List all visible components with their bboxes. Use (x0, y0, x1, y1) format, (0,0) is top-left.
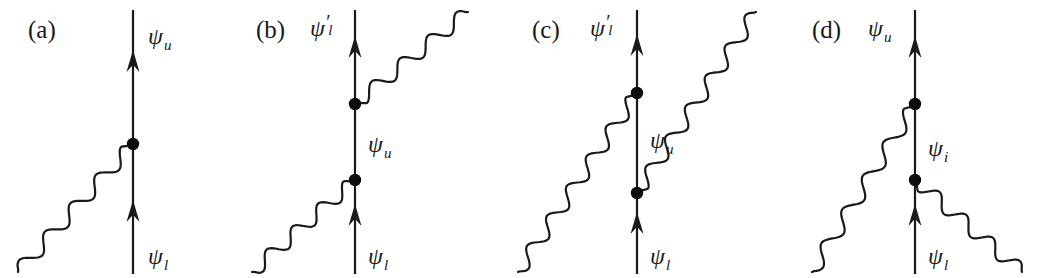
vertex-1-c (631, 87, 643, 99)
psi-glyph: ψ (148, 23, 164, 49)
psi-upper-b: ψ′l (310, 11, 332, 41)
psi-middle-b: ψu (368, 131, 391, 161)
vertex-2-c (631, 187, 643, 199)
psi-subscript-glyph: u (666, 141, 674, 157)
psi-subscript-glyph: i (944, 149, 948, 165)
panel-b: (b)ψ′lψuψl (252, 10, 468, 274)
psi-glyph: ψ (650, 243, 666, 269)
psi-lower-b: ψl (368, 243, 388, 273)
psi-subscript-glyph: u (164, 37, 172, 53)
vertex-1-b (349, 98, 361, 110)
psi-glyph: ψ (928, 135, 944, 161)
photon-in-lower-left (252, 180, 355, 273)
psi-glyph: ψ (590, 15, 606, 41)
photon-out-upper-right (355, 11, 468, 104)
panel-d: (d)ψuψiψl (812, 10, 1022, 274)
psi-glyph: ψ (148, 243, 164, 269)
psi-lower-a: ψl (148, 243, 168, 273)
psi-glyph: ψ (368, 131, 384, 157)
psi-glyph: ψ (650, 127, 666, 153)
psi-upper-c: ψ′l (590, 11, 612, 41)
psi-subscript-glyph: u (884, 29, 892, 45)
psi-glyph: ψ (310, 15, 326, 41)
feynman-diagram-figure: (a)ψuψl(b)ψ′lψuψl(c)ψ′lψuψl(d)ψuψiψl (0, 0, 1042, 278)
psi-glyph: ψ (868, 15, 884, 41)
psi-lower-c: ψl (650, 243, 670, 273)
psi-subscript-glyph: l (164, 257, 168, 273)
psi-subscript-glyph: u (384, 145, 392, 161)
vertex-2-b (349, 174, 361, 186)
panel-label-b: (b) (256, 16, 285, 44)
feynman-diagram-canvas: (a)ψuψl(b)ψ′lψuψl(c)ψ′lψuψl(d)ψuψiψl (0, 0, 1042, 278)
panel-label-a: (a) (28, 16, 56, 44)
photon-out-lower-left (18, 144, 133, 272)
psi-upper-d: ψu (868, 15, 891, 45)
psi-subscript-glyph: l (384, 257, 388, 273)
psi-middle-d: ψi (928, 135, 948, 165)
vertex-2-d (909, 174, 921, 186)
panel-label-c: (c) (532, 16, 560, 44)
vertex-1-a (127, 138, 139, 150)
panel-label-d: (d) (812, 16, 841, 44)
psi-upper-a: ψu (148, 23, 171, 53)
panel-c: (c)ψ′lψuψl (518, 10, 756, 274)
photon-out-upper-right (637, 12, 756, 193)
photon-out-lower-left (518, 93, 637, 272)
panel-a: (a)ψuψl (18, 10, 172, 274)
psi-subscript-glyph: l (608, 22, 612, 38)
psi-middle-c: ψu (650, 127, 673, 157)
vertex-1-d (909, 98, 921, 110)
psi-subscript-glyph: l (666, 257, 670, 273)
psi-subscript-glyph: l (944, 257, 948, 273)
psi-glyph: ψ (368, 243, 384, 269)
psi-lower-d: ψl (928, 243, 948, 273)
psi-glyph: ψ (928, 243, 944, 269)
psi-subscript-glyph: l (328, 22, 332, 38)
photon-out-lower-left (812, 104, 915, 272)
